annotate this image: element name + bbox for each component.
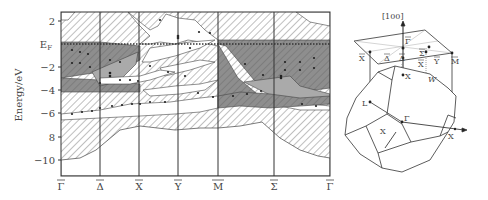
label-l: L [362, 99, 368, 108]
y-tick-ef: EF [40, 39, 52, 52]
label-gamma-bar: Γ [405, 37, 411, 46]
label-m-bar: M [451, 57, 459, 66]
x-label-m: M [213, 181, 223, 192]
y-tick-minus6: −6 [40, 108, 55, 119]
x-label-y: Y [174, 181, 182, 192]
x-label-sigma: Σ [270, 181, 277, 192]
label-gamma: Γ [404, 114, 410, 123]
label-x-bulk-3: X [448, 132, 454, 141]
x-axis: Γ Δ X Y M Σ Γ [57, 180, 334, 192]
x-label-x: X [135, 181, 143, 192]
y-tick-minus4: −4 [40, 85, 55, 96]
label-w: W [428, 75, 437, 84]
x-label-delta: Δ [96, 181, 103, 192]
label-x-bar: X [359, 54, 365, 63]
y-tick-minus2: −2 [40, 62, 55, 73]
label-x-bulk-2: X [380, 127, 386, 136]
y-tick-2: 2 [49, 16, 55, 27]
y-tick-minus10: −10 [34, 155, 55, 166]
label-delta-bar-1: Δ [384, 54, 390, 63]
label-x-bar-2: X [418, 60, 424, 69]
label-sigma-bar: Σ [419, 49, 425, 58]
label-delta-bar-2: Δ [399, 54, 405, 63]
label-x-bulk: X [405, 72, 411, 81]
x-label-gamma: Γ [58, 181, 65, 192]
y-tick-minus8: 8 [49, 132, 55, 143]
x-label-gamma-end: Γ [327, 181, 334, 192]
y-axis-label: Energy/eV [13, 68, 24, 122]
band-plot [61, 12, 330, 176]
label-y-bar: Y [433, 57, 440, 66]
band-structure-figure: 2 EF −2 −4 −6 8 −10 Energy/eV Γ Δ X Y M … [0, 0, 488, 200]
direction-label: [100] [382, 12, 404, 21]
y-axis: 2 EF −2 −4 −6 8 −10 [34, 16, 61, 166]
